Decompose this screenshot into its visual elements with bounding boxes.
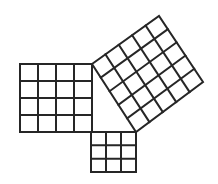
pythagorean-diagram [0,0,218,184]
square-b [91,132,136,172]
square-a [20,64,92,132]
grid-line [118,56,185,105]
grid-line [127,69,194,119]
square-b-outline [91,132,136,172]
grid-line [119,45,163,112]
grid-line [146,26,190,92]
grid-line [110,42,177,91]
grid-line [101,29,168,77]
square-c [92,16,203,132]
grid-line [105,54,149,122]
grid-line [132,35,176,102]
